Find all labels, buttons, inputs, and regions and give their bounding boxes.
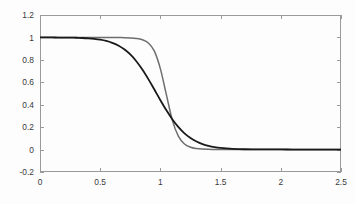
y-axis-tick-label: 1 <box>29 33 34 43</box>
line-chart: 00.511.522.5-0.200.20.40.60.811.2 <box>0 0 355 204</box>
y-axis-tick-label: 0.8 <box>22 55 34 65</box>
chart-background <box>0 0 355 204</box>
x-axis-tick-label: 0 <box>38 177 43 187</box>
y-axis-tick-label: 0.2 <box>22 122 34 132</box>
y-axis-tick-label: 0.6 <box>22 77 34 87</box>
x-axis-tick-label: 1.5 <box>215 177 227 187</box>
y-axis-tick-label: 0.4 <box>22 100 34 110</box>
x-axis-tick-label: 2 <box>278 177 283 187</box>
y-axis-tick-label: 0 <box>29 145 34 155</box>
y-axis-tick-label: -0.2 <box>20 167 35 177</box>
x-axis-tick-label: 1 <box>158 177 163 187</box>
figure-container: 00.511.522.5-0.200.20.40.60.811.2 <box>0 0 355 204</box>
x-axis-tick-label: 2.5 <box>335 177 347 187</box>
y-axis-tick-label: 1.2 <box>22 10 34 20</box>
x-axis-tick-label: 0.5 <box>94 177 106 187</box>
